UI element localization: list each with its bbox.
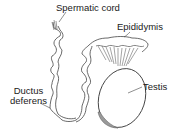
label-ductus-line2: deferens	[10, 96, 47, 106]
epididymis-tubules	[98, 46, 138, 66]
leader-epididymis	[124, 32, 130, 37]
leader-spermatic-cord	[59, 12, 66, 22]
label-testis: Testis	[143, 82, 167, 92]
anatomy-diagram: Spermatic cord Epididymis Testis Ductus …	[0, 0, 176, 139]
label-spermatic-cord: Spermatic cord	[56, 3, 120, 13]
testis-body	[91, 62, 153, 133]
ductus-deferens-left-coil-inner	[56, 26, 76, 119]
label-ductus-deferens: Ductus deferens	[10, 86, 47, 106]
label-epididymis: Epididymis	[117, 22, 163, 32]
epididymis-coils	[96, 45, 144, 46]
ductus-deferens-right-coil-inner	[76, 46, 92, 122]
